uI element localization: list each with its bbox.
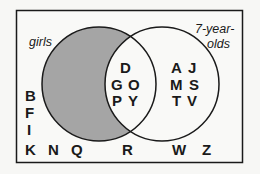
letter-t: T [172, 92, 181, 109]
letter-y: Y [128, 92, 138, 109]
letter-p: P [112, 92, 122, 109]
letter-z: Z [202, 141, 211, 158]
letter-s: S [189, 76, 199, 93]
letter-i: I [27, 121, 31, 138]
letter-b: B [25, 87, 36, 104]
letter-j: J [188, 59, 196, 76]
letter-n: N [48, 141, 59, 158]
letter-d: D [120, 59, 131, 76]
letter-g: G [111, 76, 123, 93]
letter-f: F [25, 104, 34, 121]
letter-o: O [128, 76, 140, 93]
girls-label: girls [29, 35, 52, 49]
letter-m: M [170, 76, 183, 93]
letter-k: K [25, 141, 36, 158]
letter-q: Q [71, 141, 83, 158]
seven-year-olds-label-line2: olds [207, 37, 230, 51]
letter-a: A [171, 59, 182, 76]
letter-w: W [172, 141, 187, 158]
letter-r: R [122, 141, 133, 158]
seven-year-olds-label-line1: 7-year- [195, 22, 234, 36]
venn-diagram: girls 7-year- olds D G O P Y A J M S T V… [0, 0, 260, 174]
letter-v: V [187, 92, 197, 109]
